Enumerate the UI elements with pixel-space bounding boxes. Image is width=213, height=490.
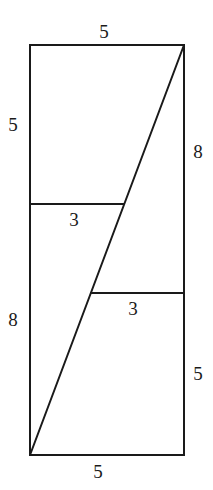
dissection-diagram: 5 5 3 8 3 8 5 5 xyxy=(0,0,213,490)
label-left-lower: 8 xyxy=(8,309,18,330)
diagonal-cut xyxy=(30,45,184,455)
label-bottom-width: 5 xyxy=(93,461,103,482)
label-upper-cut: 3 xyxy=(69,209,79,230)
label-lower-cut: 3 xyxy=(128,298,138,319)
label-right-lower: 5 xyxy=(193,363,203,384)
label-left-upper: 5 xyxy=(8,114,18,135)
shape xyxy=(30,45,184,455)
label-top-width: 5 xyxy=(99,21,109,42)
label-right-upper: 8 xyxy=(193,141,203,162)
